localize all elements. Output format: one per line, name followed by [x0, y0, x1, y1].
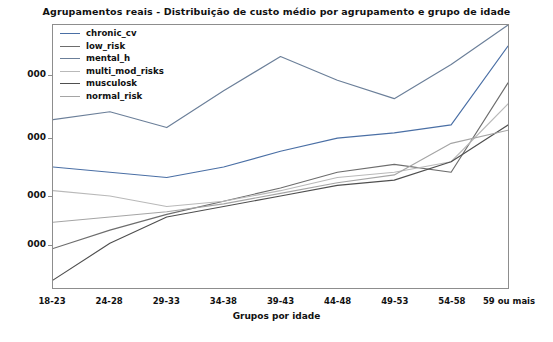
- legend-item-musculosk[interactable]: musculosk: [60, 78, 164, 90]
- legend-item-low-risk[interactable]: low_risk: [60, 41, 164, 53]
- legend-label: chronic_cv: [86, 28, 137, 39]
- x-axis-tick-label: 59 ou mais: [483, 296, 535, 306]
- legend-swatch-icon: [60, 33, 80, 34]
- legend-item-multi-mod-risks[interactable]: multi_mod_risks: [60, 66, 164, 78]
- legend-label: normal_risk: [86, 91, 142, 102]
- y-axis-tick-label: 000: [0, 69, 46, 79]
- legend-swatch-icon: [60, 71, 80, 72]
- x-axis-tick-label: 54-58: [438, 296, 465, 306]
- x-axis-tick-label: 34-38: [210, 296, 237, 306]
- legend-label: mental_h: [86, 53, 130, 64]
- chart-title: Agrupamentos reais - Distribuição de cus…: [0, 6, 553, 17]
- x-axis-tick-label: 29-33: [153, 296, 180, 306]
- x-axis-tick-label: 39-43: [267, 296, 294, 306]
- legend-item-mental-h[interactable]: mental_h: [60, 53, 164, 65]
- legend-swatch-icon: [60, 83, 80, 84]
- x-axis-tick-label: 24-28: [96, 296, 123, 306]
- series-line-normal-risk: [53, 130, 508, 222]
- series-line-multi-mod-risks: [53, 104, 508, 207]
- x-axis-tick-label: 18-23: [38, 296, 65, 306]
- series-line-musculosk: [53, 125, 508, 280]
- chart-root: Agrupamentos reais - Distribuição de cus…: [0, 0, 553, 342]
- legend-item-normal-risk[interactable]: normal_risk: [60, 91, 164, 103]
- y-axis-tick-label: 000: [0, 239, 46, 249]
- legend-swatch-icon: [60, 96, 80, 97]
- y-axis-tick-label: 000: [0, 132, 46, 142]
- chart-legend: chronic_cvlow_riskmental_hmulti_mod_risk…: [60, 28, 164, 102]
- x-axis-title: Grupos por idade: [0, 311, 553, 321]
- legend-item-chronic-cv[interactable]: chronic_cv: [60, 28, 164, 40]
- x-axis-tick-label: 49-53: [381, 296, 408, 306]
- legend-swatch-icon: [60, 58, 80, 59]
- legend-label: multi_mod_risks: [86, 66, 164, 77]
- legend-label: low_risk: [86, 41, 125, 52]
- y-axis-tick-label: 000: [0, 190, 46, 200]
- x-axis-tick-label: 44-48: [324, 296, 351, 306]
- legend-swatch-icon: [60, 46, 80, 47]
- legend-label: musculosk: [86, 78, 137, 89]
